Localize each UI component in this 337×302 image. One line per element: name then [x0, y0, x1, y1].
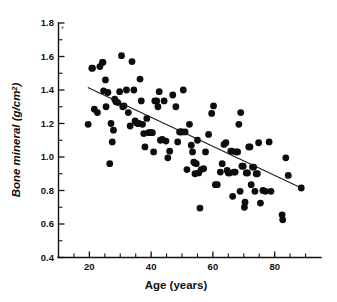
- y-tick-label: 1.2: [41, 118, 54, 129]
- data-point: [123, 87, 130, 94]
- data-point: [125, 109, 132, 116]
- x-axis-title-group: Age (years): [145, 279, 208, 291]
- data-point: [103, 103, 110, 110]
- data-point: [229, 193, 236, 200]
- data-point: [240, 163, 247, 170]
- data-point: [139, 121, 146, 128]
- data-point: [127, 123, 134, 130]
- data-point: [247, 144, 254, 151]
- data-point: [248, 181, 255, 188]
- data-point: [197, 205, 204, 212]
- data-point: [105, 89, 112, 96]
- data-point: [118, 52, 125, 59]
- data-point: [193, 160, 200, 167]
- data-point: [255, 139, 262, 146]
- x-tick-label: 20: [84, 261, 95, 272]
- data-point: [161, 97, 168, 104]
- data-point: [142, 144, 149, 151]
- data-point: [217, 169, 224, 176]
- data-point: [169, 92, 176, 99]
- data-point: [235, 121, 242, 128]
- data-point: [108, 120, 115, 127]
- data-point: [188, 142, 195, 149]
- x-tick-label: 60: [208, 261, 219, 272]
- x-axis-title: Age (years): [145, 279, 208, 291]
- data-point: [205, 131, 212, 138]
- data-point: [266, 139, 273, 146]
- data-point: [189, 149, 196, 156]
- data-point: [110, 127, 117, 134]
- data-point: [202, 149, 209, 156]
- x-tick-label: 40: [146, 261, 157, 272]
- data-point: [102, 77, 109, 84]
- data-point: [129, 58, 136, 65]
- data-point: [106, 160, 113, 167]
- data-point: [186, 121, 193, 128]
- y-tick-label: 0.6: [41, 218, 54, 229]
- data-point: [237, 109, 244, 116]
- data-point: [254, 170, 261, 177]
- data-point: [252, 188, 259, 195]
- data-point: [155, 103, 162, 110]
- data-point: [172, 103, 179, 110]
- data-point: [85, 121, 92, 128]
- data-point: [282, 154, 289, 161]
- data-point: [94, 109, 101, 116]
- data-point: [153, 97, 160, 104]
- bone-mineral-scatter-figure: 0.40.60.81.01.21.41.61.8 20406080 Bone m…: [0, 0, 337, 302]
- data-point: [257, 200, 264, 207]
- y-tick-label: 1.6: [41, 51, 54, 62]
- data-point: [89, 65, 96, 72]
- data-point: [208, 110, 215, 117]
- data-point: [279, 216, 286, 223]
- data-point: [156, 88, 163, 95]
- data-point: [138, 97, 145, 104]
- data-point: [116, 88, 123, 95]
- y-tick-label: 1.0: [41, 151, 54, 162]
- data-point: [200, 165, 207, 172]
- x-tick-label: 80: [269, 261, 280, 272]
- stray-speck-mark: [62, 27, 64, 29]
- data-point: [109, 139, 116, 146]
- data-point: [285, 172, 292, 179]
- data-point: [130, 87, 137, 94]
- data-point: [137, 76, 144, 83]
- data-point: [268, 188, 275, 195]
- data-point: [180, 87, 187, 94]
- data-point: [174, 139, 181, 146]
- data-point: [232, 169, 239, 176]
- data-point: [163, 138, 170, 145]
- data-point: [184, 166, 191, 173]
- data-point: [100, 59, 107, 66]
- data-point: [234, 149, 241, 156]
- scatter-chart: 0.40.60.81.01.21.41.61.8 20406080 Bone m…: [0, 0, 337, 302]
- y-tick-label: 1.4: [41, 84, 55, 95]
- data-point: [222, 139, 229, 146]
- data-point: [219, 160, 226, 167]
- data-point: [237, 188, 244, 195]
- data-point: [164, 154, 171, 161]
- data-point: [149, 129, 156, 136]
- data-point: [150, 149, 157, 156]
- data-point: [210, 103, 217, 110]
- y-axis-title-group: Bone mineral (g/cm2): [10, 82, 23, 197]
- data-point: [242, 199, 249, 206]
- data-point: [214, 181, 221, 188]
- y-axis-title: Bone mineral (g/cm2): [10, 82, 23, 197]
- data-point: [166, 148, 173, 155]
- data-point: [244, 170, 251, 177]
- y-tick-label: 0.4: [41, 252, 55, 263]
- y-tick-label: 0.8: [41, 185, 54, 196]
- y-tick-label: 1.8: [41, 17, 54, 28]
